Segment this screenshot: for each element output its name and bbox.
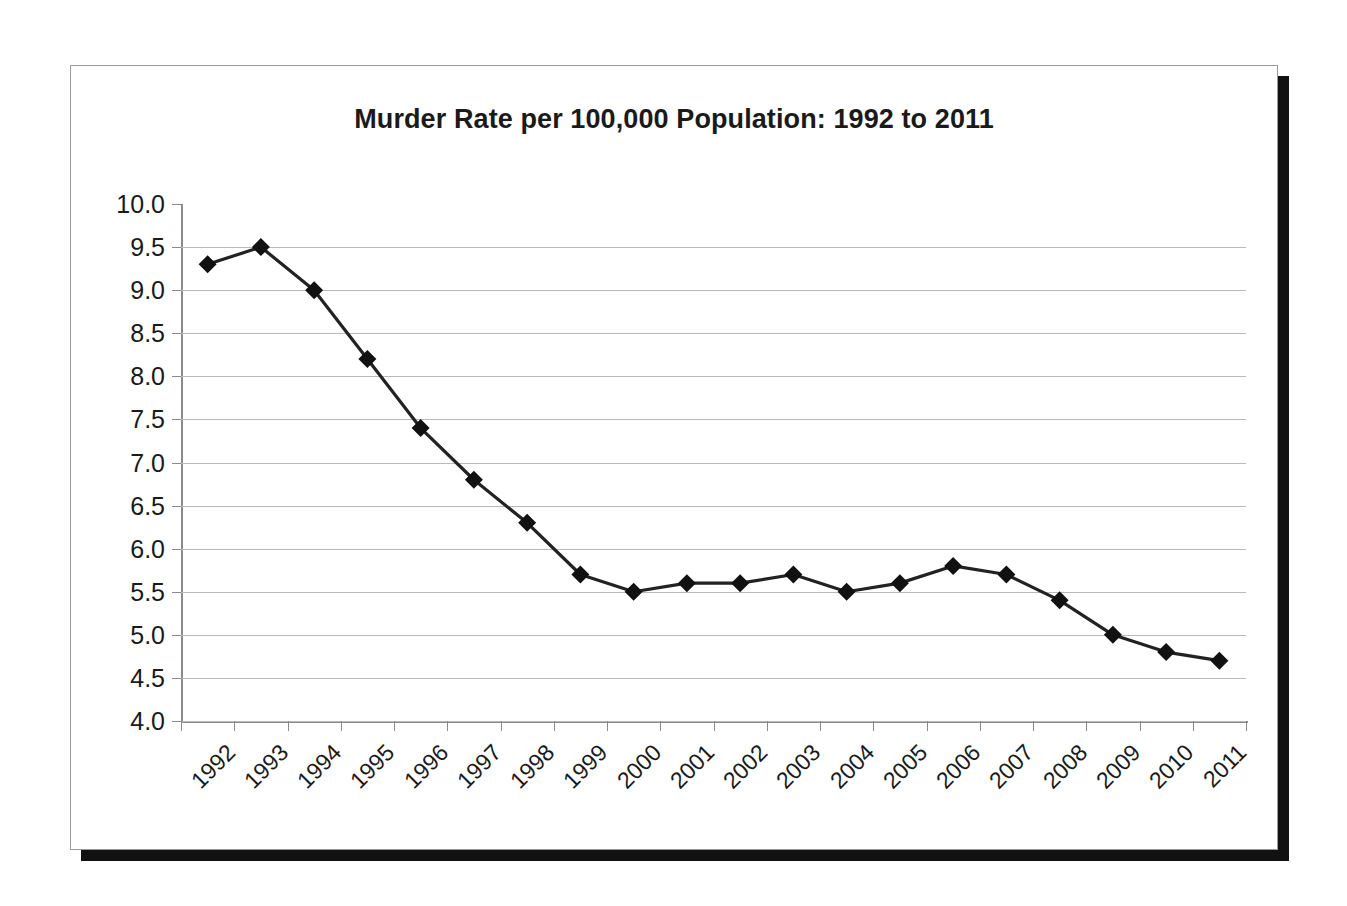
data-point-marker	[944, 557, 962, 575]
x-axis-label: 1995	[345, 739, 400, 794]
x-axis-label: 1993	[239, 739, 294, 794]
y-axis-tick	[172, 506, 181, 507]
x-axis-tick	[394, 721, 395, 731]
data-point-marker	[731, 574, 749, 592]
y-axis-tick	[172, 592, 181, 593]
x-axis-label: 2005	[878, 739, 933, 794]
data-point-marker	[625, 583, 643, 601]
chart-frame: Murder Rate per 100,000 Population: 1992…	[70, 65, 1278, 850]
x-axis-tick	[1140, 721, 1141, 731]
y-axis-label: 8.5	[130, 319, 165, 348]
y-axis-label: 7.0	[130, 448, 165, 477]
y-axis-label: 9.0	[130, 276, 165, 305]
series-line	[208, 247, 1220, 661]
y-axis-tick	[172, 333, 181, 334]
x-axis-tick	[607, 721, 608, 731]
y-axis-label: 6.5	[130, 491, 165, 520]
x-axis-label: 2008	[1037, 739, 1092, 794]
x-axis-tick	[288, 721, 289, 731]
y-axis-tick	[172, 721, 181, 722]
x-axis-tick	[980, 721, 981, 731]
y-axis-tick	[172, 204, 181, 205]
x-axis-tick	[1086, 721, 1087, 731]
x-axis-tick	[234, 721, 235, 731]
x-axis-tick	[554, 721, 555, 731]
data-point-marker	[784, 566, 802, 584]
y-axis-label: 4.0	[130, 707, 165, 736]
x-axis-tick	[501, 721, 502, 731]
data-point-marker	[199, 255, 217, 273]
chart-title: Murder Rate per 100,000 Population: 1992…	[71, 104, 1277, 135]
x-axis-tick	[341, 721, 342, 731]
x-axis-tick	[714, 721, 715, 731]
x-axis-tick	[927, 721, 928, 731]
y-axis-tick	[172, 463, 181, 464]
y-axis-label: 5.5	[130, 577, 165, 606]
x-axis-label: 2000	[611, 739, 666, 794]
line-series	[181, 204, 1246, 721]
plot-area: 10.09.59.08.58.07.57.06.56.05.55.04.54.0…	[181, 204, 1246, 721]
x-axis-label: 2002	[718, 739, 773, 794]
y-axis-tick	[172, 635, 181, 636]
x-axis-label: 2011	[1198, 739, 1252, 793]
y-axis-tick	[172, 419, 181, 420]
x-axis-tick	[820, 721, 821, 731]
x-axis-label: 1997	[452, 739, 507, 794]
y-axis-label: 7.5	[130, 405, 165, 434]
x-axis-tick	[767, 721, 768, 731]
x-axis-label: 1992	[185, 739, 240, 794]
x-axis-label: 2007	[984, 739, 1039, 794]
x-axis-label: 1998	[505, 739, 560, 794]
x-axis-label: 2009	[1091, 739, 1146, 794]
y-axis-tick	[172, 549, 181, 550]
y-axis-label: 5.0	[130, 620, 165, 649]
x-axis-tick	[873, 721, 874, 731]
data-point-marker	[838, 583, 856, 601]
y-axis-tick	[172, 290, 181, 291]
x-axis-label: 1994	[292, 739, 347, 794]
y-axis-tick	[172, 247, 181, 248]
y-axis-tick	[172, 678, 181, 679]
x-axis-tick	[1246, 721, 1247, 731]
data-point-marker	[1157, 643, 1175, 661]
x-axis-tick	[1033, 721, 1034, 731]
x-axis-tick	[181, 721, 182, 731]
x-axis-label: 2010	[1144, 739, 1199, 794]
y-axis-label: 10.0	[116, 190, 165, 219]
y-axis-label: 6.0	[130, 534, 165, 563]
data-point-marker	[1210, 652, 1228, 670]
x-axis-label: 2003	[771, 739, 826, 794]
data-point-marker	[891, 574, 909, 592]
x-axis-label: 2001	[665, 739, 720, 794]
y-axis-label: 4.5	[130, 663, 165, 692]
x-axis-tick	[1193, 721, 1194, 731]
data-point-marker	[1051, 591, 1069, 609]
data-point-marker	[997, 566, 1015, 584]
x-axis-label: 1999	[558, 739, 613, 794]
x-axis-tick	[660, 721, 661, 731]
y-axis-label: 9.5	[130, 233, 165, 262]
x-axis-label: 2004	[824, 739, 879, 794]
y-axis-tick	[172, 376, 181, 377]
data-point-marker	[678, 574, 696, 592]
x-axis-label: 1996	[398, 739, 453, 794]
x-axis-tick	[447, 721, 448, 731]
y-axis-label: 8.0	[130, 362, 165, 391]
data-point-marker	[1104, 626, 1122, 644]
x-axis-label: 2006	[931, 739, 986, 794]
